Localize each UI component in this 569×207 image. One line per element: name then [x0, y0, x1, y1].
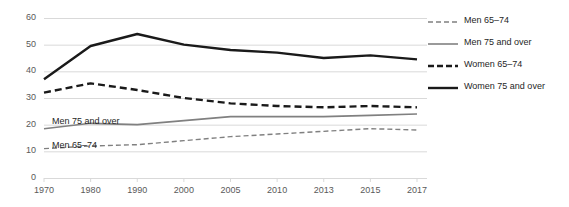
y-tick-label: 30 — [12, 93, 36, 102]
inline-series-label: Men 75 and over — [52, 117, 120, 126]
y-tick-label: 60 — [12, 13, 36, 22]
x-tick-label: 2017 — [397, 186, 437, 195]
legend-item[interactable]: Women 65–74 — [428, 56, 569, 72]
inline-series-label: Men 65–74 — [52, 141, 97, 150]
legend-swatch — [428, 80, 458, 92]
x-tick-label: 1970 — [24, 186, 64, 195]
x-tick-label: 1990 — [117, 186, 157, 195]
x-tick-label: 2015 — [350, 186, 390, 195]
series-lines — [44, 34, 417, 149]
x-tick-label: 2005 — [211, 186, 251, 195]
legend-swatch — [428, 36, 458, 48]
y-tick-label: 0 — [12, 173, 36, 182]
legend-swatch — [428, 14, 458, 26]
x-tick-label: 2010 — [257, 186, 297, 195]
y-tick-label: 10 — [12, 146, 36, 155]
legend-label: Women 65–74 — [464, 60, 522, 69]
plot-svg — [0, 0, 440, 207]
legend-label: Men 65–74 — [464, 16, 509, 25]
x-tick-label: 1980 — [71, 186, 111, 195]
legend-label: Men 75 and over — [464, 38, 532, 47]
y-tick-label: 40 — [12, 66, 36, 75]
x-tick-label: 2013 — [304, 186, 344, 195]
legend-item[interactable]: Men 65–74 — [428, 12, 569, 28]
legend-label: Women 75 and over — [464, 82, 545, 91]
legend-item[interactable]: Women 75 and over — [428, 78, 569, 94]
plot-area: 0102030405060 19701980199020002005201020… — [0, 0, 440, 207]
series-line — [44, 34, 417, 79]
y-tick-label: 50 — [12, 40, 36, 49]
x-tick-label: 2000 — [164, 186, 204, 195]
legend-swatch — [428, 58, 458, 70]
series-line — [44, 129, 417, 149]
y-tick-label: 20 — [12, 120, 36, 129]
legend-item[interactable]: Men 75 and over — [428, 34, 569, 50]
series-line — [44, 83, 417, 107]
line-chart: 0102030405060 19701980199020002005201020… — [0, 0, 569, 207]
chart-legend: Men 65–74Men 75 and overWomen 65–74Women… — [428, 12, 569, 100]
